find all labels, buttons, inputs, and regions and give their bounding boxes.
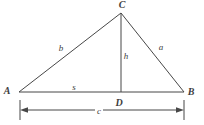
left-arrowhead-icon <box>20 107 28 112</box>
vertex-label-c: C <box>119 0 126 10</box>
vertex-label-a: A <box>4 86 11 96</box>
vertex-label-d: D <box>115 98 122 108</box>
altitude-label-h: h <box>124 52 129 61</box>
vertex-label-b: B <box>188 87 195 97</box>
side-line-cb <box>121 13 184 92</box>
side-label-a: a <box>159 43 164 52</box>
triangle-altitude-diagram: C A B D b a h s c <box>0 0 204 125</box>
base-length-label-c: c <box>95 107 103 116</box>
segment-label-s: s <box>72 83 76 92</box>
side-line-ac <box>19 13 121 92</box>
side-label-b: b <box>59 44 64 53</box>
right-arrowhead-icon <box>176 107 184 112</box>
